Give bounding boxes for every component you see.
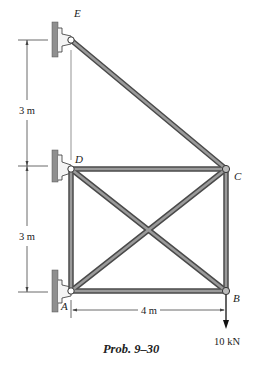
arrowhead-icon	[26, 40, 29, 45]
truss-members	[71, 40, 226, 291]
wall	[52, 270, 58, 312]
vertical-dimension	[18, 40, 48, 292]
joint-label-e: E	[73, 7, 81, 19]
joint-label-a: A	[60, 300, 68, 312]
load-arrow	[223, 295, 229, 329]
pin-a-icon	[68, 288, 74, 294]
arrow-down-icon	[223, 320, 229, 329]
joint-label-b: B	[233, 292, 240, 304]
figure-caption: Prob. 9–30	[103, 342, 160, 356]
wall	[52, 22, 58, 57]
member-ec	[71, 40, 226, 169]
pin-d-icon	[68, 166, 74, 172]
dimension-label-lower: 3 m	[19, 231, 35, 242]
arrowhead-icon	[26, 161, 29, 166]
truss-diagram: 3 m 3 m 4 m	[0, 0, 257, 367]
pin-b-icon	[222, 287, 229, 294]
joint-label-d: D	[74, 153, 83, 165]
pins	[68, 37, 230, 295]
dimension-label-upper: 3 m	[19, 105, 35, 116]
support-d	[52, 150, 71, 182]
dimension-label-horizontal: 4 m	[141, 305, 157, 316]
joint-label-c: C	[234, 170, 242, 182]
arrowhead-icon	[26, 287, 29, 292]
wall	[52, 150, 58, 182]
arrowhead-icon	[72, 309, 77, 312]
load-label: 10 kN	[214, 336, 240, 347]
arrowhead-icon	[220, 309, 225, 312]
pin-e-icon	[68, 37, 74, 43]
pin-c-icon	[222, 165, 229, 172]
arrowhead-icon	[26, 166, 29, 171]
